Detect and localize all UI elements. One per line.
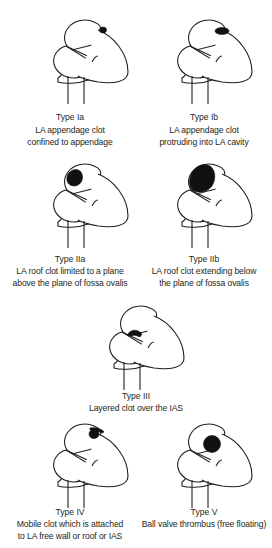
la-heart-diagram-iia (2, 144, 138, 256)
type-label: Type IIa (2, 254, 138, 265)
clot-icon (100, 27, 107, 33)
type-label: Type III (48, 391, 224, 402)
panel-description: Ball valve thrombus (free floating) (116, 519, 272, 531)
la-heart-diagram-v (136, 404, 272, 516)
clot-icon (89, 430, 99, 439)
type-label: Type IIb (136, 254, 272, 265)
type-label: Type Ia (2, 112, 138, 123)
clot-icon (204, 436, 221, 453)
type-label: Type V (116, 507, 272, 518)
la-heart-diagram-ib (136, 0, 272, 112)
la-heart-diagram-iib (136, 144, 272, 256)
clot-icon (215, 28, 229, 35)
type-label: Type Ib (136, 112, 272, 123)
la-heart-diagram-iv (2, 404, 138, 516)
la-heart-diagram-iii (68, 286, 204, 398)
la-heart-diagram-ia (2, 0, 138, 112)
